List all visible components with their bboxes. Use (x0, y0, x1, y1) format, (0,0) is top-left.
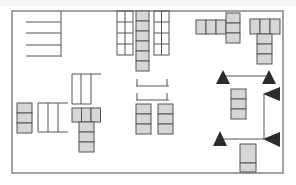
stall-cell (136, 51, 149, 61)
stall-cell (231, 109, 246, 119)
stall-cell (226, 33, 240, 43)
stall-cell (231, 89, 246, 99)
stall-cell (206, 20, 216, 34)
stall-cell (250, 19, 260, 34)
row-top-right-b (250, 19, 280, 34)
stall-cell (226, 13, 240, 23)
stall-cell (136, 104, 151, 114)
column-right-mid (231, 89, 246, 119)
stall-cell (72, 108, 82, 122)
column-top-right-b (257, 34, 272, 64)
stall-cell (257, 44, 272, 54)
stall-cell (270, 19, 280, 34)
stall-cell (257, 34, 272, 44)
stall-cell (136, 31, 149, 41)
row-center-left (72, 108, 101, 122)
stall-cell (17, 113, 32, 123)
stall-cell (17, 103, 32, 113)
stall-cell (136, 11, 149, 21)
stall-cell (17, 123, 32, 133)
stall-cell (196, 20, 206, 34)
floor-plan-diagram (0, 0, 296, 185)
shelf-grid-right (154, 11, 169, 55)
stall-cell (158, 104, 173, 114)
box-right-bottom-lower (240, 163, 256, 172)
stall-cell (136, 61, 149, 71)
arrow-up-1-icon (216, 70, 230, 84)
stall-cell (158, 114, 173, 124)
stall-cell-groups (17, 11, 280, 172)
column-center-b (158, 104, 173, 134)
stall-cell (158, 124, 173, 134)
column-center-left (79, 122, 94, 152)
stall-cell (260, 19, 270, 34)
row-top-right-a (196, 20, 226, 34)
box-right-bottom (240, 144, 256, 163)
column-center-a (136, 104, 151, 134)
stall-cell (136, 41, 149, 51)
stall-cell (226, 23, 240, 33)
column-left-bottom (17, 103, 32, 133)
stall-cell (231, 99, 246, 109)
shelf-grid-left (117, 11, 133, 55)
stall-cell (79, 122, 94, 132)
stall-cell (82, 108, 92, 122)
stall-cell (216, 20, 226, 34)
arrow-left-1-icon (263, 87, 280, 101)
arrow-left-2-icon (263, 132, 280, 147)
stall-cell (136, 124, 151, 134)
column-center-top (136, 11, 149, 71)
stall-cell (136, 21, 149, 31)
arrow-up-2-icon (262, 70, 276, 84)
stall-cell (79, 142, 94, 152)
column-top-right-a (226, 13, 240, 43)
stall-cell (240, 144, 256, 163)
stall-cell (79, 132, 94, 142)
stall-cell (91, 108, 101, 122)
stall-cell (240, 163, 256, 172)
stall-cell (257, 54, 272, 64)
stall-cell (136, 114, 151, 124)
